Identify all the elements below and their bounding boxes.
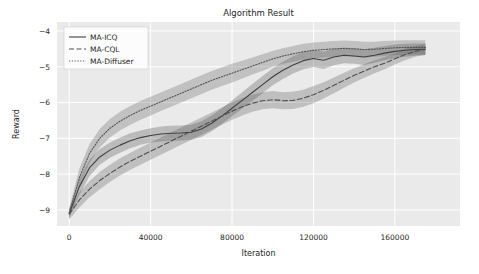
algorithm-result-chart: 04000080000120000160000 −4−5−6−7−8−9 Alg… [0,0,479,274]
chart-legend[interactable]: MA-ICQMA-CQLMA-Diffuser [64,27,148,69]
chart-title: Algorithm Result [223,8,294,18]
x-tick-label: 120000 [299,233,328,242]
legend-label[interactable]: MA-ICQ [90,33,118,42]
x-tick-label: 160000 [381,233,410,242]
x-tick-label: 0 [67,233,72,242]
y-tick-label: −8 [39,170,50,179]
y-tick-label: −9 [39,206,50,215]
x-axis-label: Iteration [242,249,276,258]
chart-figure: 04000080000120000160000 −4−5−6−7−8−9 Alg… [0,0,479,274]
legend-label[interactable]: MA-Diffuser [90,57,134,66]
y-axis-label: Reward [12,109,21,139]
y-tick-label: −5 [39,63,50,72]
y-tick-label: −6 [39,98,50,107]
y-tick-label: −4 [39,27,50,36]
y-tick-label: −7 [39,134,50,143]
x-tick-label: 40000 [139,233,163,242]
legend-label[interactable]: MA-CQL [90,45,120,54]
x-tick-label: 80000 [220,233,244,242]
